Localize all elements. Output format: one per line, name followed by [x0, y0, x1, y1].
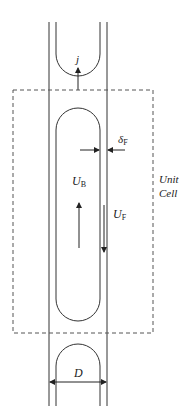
delta-f-label: δF [118, 133, 128, 147]
slug-flow-diagram: j δF UB UF Unit Cell D [0, 0, 179, 419]
u-f-label: UF [113, 207, 127, 222]
d-label: D [73, 366, 83, 380]
u-b-label: UB [72, 174, 86, 189]
top-bubble-tail [56, 22, 100, 76]
unit-label: Unit [159, 173, 179, 185]
unit-cell-box [13, 90, 153, 333]
taylor-bubble [56, 108, 100, 321]
cell-label: Cell [159, 187, 177, 199]
j-label: j [74, 53, 79, 65]
